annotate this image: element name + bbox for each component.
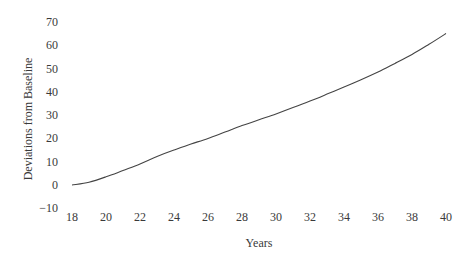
y-tick-label: 10: [46, 155, 58, 169]
x-tick-label: 34: [338, 210, 350, 224]
x-tick-label: 32: [304, 210, 316, 224]
x-tick-label: 24: [168, 210, 180, 224]
x-tick-label: 30: [270, 210, 282, 224]
y-tick-label: 30: [46, 108, 58, 122]
x-tick-label: 36: [372, 210, 384, 224]
y-tick-label: 50: [46, 62, 58, 76]
line-chart: Deviations from Baseline −10010203040506…: [0, 0, 465, 260]
x-tick-label: 38: [406, 210, 418, 224]
y-tick-label: 40: [46, 85, 58, 99]
y-tick-label: 0: [52, 178, 58, 192]
x-tick-label: 18: [66, 210, 78, 224]
x-tick-label: 26: [202, 210, 214, 224]
y-tick-label: −10: [39, 201, 58, 215]
y-axis-label: Deviations from Baseline: [21, 58, 35, 181]
y-tick-label: 20: [46, 131, 58, 145]
y-tick-label: 60: [46, 38, 58, 52]
x-tick-label: 40: [440, 210, 452, 224]
x-axis-ticks: 182022242628303234363840: [66, 210, 452, 224]
data-line: [72, 34, 446, 186]
y-axis-ticks: −10010203040506070: [39, 15, 58, 215]
x-tick-label: 28: [236, 210, 248, 224]
x-tick-label: 20: [100, 210, 112, 224]
y-tick-label: 70: [46, 15, 58, 29]
x-axis-label: Years: [246, 236, 273, 250]
x-tick-label: 22: [134, 210, 146, 224]
